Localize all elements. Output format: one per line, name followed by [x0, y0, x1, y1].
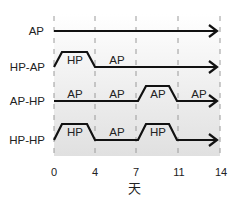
x-tick-label: 0 — [51, 166, 57, 178]
segment-label: AP — [191, 88, 207, 100]
segment-label: AP — [150, 88, 166, 100]
segment-label: AP — [109, 88, 125, 100]
row-label-hp-hp: HP-HP — [9, 134, 45, 146]
x-tick-label: 11 — [173, 166, 184, 178]
x-axis-title: 天 — [128, 181, 141, 196]
row-label-hp-ap: HP-AP — [10, 61, 45, 73]
row-label-ap-hp: AP-HP — [10, 95, 45, 107]
x-tick-label: 4 — [92, 166, 98, 178]
segment-label: HP — [67, 54, 83, 66]
x-tick-label: 7 — [133, 166, 139, 178]
row-label-ap: AP — [29, 25, 45, 37]
treatment-schedule-diagram: AP HP-AP AP-HP HP-HP HP AP AP AP AP AP H… — [0, 0, 236, 204]
segment-label: AP — [109, 54, 125, 66]
segment-label: HP — [150, 126, 166, 138]
x-tick-label: 14 — [215, 166, 227, 178]
segment-label: AP — [67, 88, 83, 100]
segment-label: AP — [109, 126, 125, 138]
segment-label: HP — [67, 126, 83, 138]
